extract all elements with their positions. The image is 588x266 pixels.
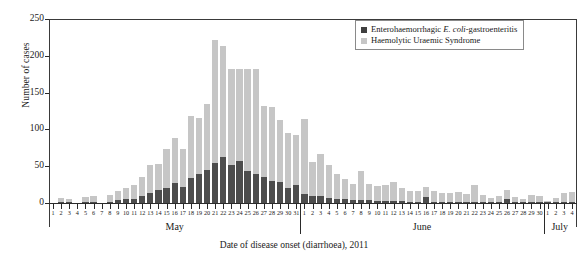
bar-segment-hus (382, 185, 388, 201)
bar (317, 154, 323, 203)
y-tick-label: 50 (4, 161, 44, 171)
bar-segment-hus (147, 165, 153, 193)
bar-segment-hus (439, 193, 445, 202)
bar (480, 195, 486, 203)
bar (115, 191, 121, 204)
bar (107, 195, 113, 203)
y-tick-label: 250 (4, 14, 44, 24)
bar-segment-hus (407, 191, 413, 202)
bar (220, 46, 226, 203)
bar (358, 171, 364, 203)
bar-segment-hus (139, 177, 145, 196)
bar (228, 69, 234, 203)
bar-segment-hus (431, 191, 437, 202)
bar-segment-hus (253, 69, 259, 174)
bar (293, 135, 299, 203)
bar-segment-hus (220, 46, 226, 157)
bar (423, 187, 429, 203)
bar-segment-hus (293, 135, 299, 185)
bar (261, 106, 267, 203)
bar (390, 182, 396, 203)
y-tick-label: 0 (4, 198, 44, 208)
bar-segment-hus (180, 149, 186, 187)
bar-segment-hus (569, 192, 575, 202)
bar (131, 185, 137, 203)
bar (196, 118, 202, 203)
bar (301, 119, 307, 203)
bar-segment-ehec (293, 185, 299, 203)
bar-segment-hus (163, 149, 169, 188)
legend: Enterohaemorrhagic E. coli-gastroenterit… (355, 20, 524, 50)
bar-segment-ehec (212, 163, 218, 203)
bar (407, 191, 413, 204)
bar-segment-ehec (155, 190, 161, 203)
bar-segment-ehec (196, 174, 202, 203)
bar-segment-hus (455, 192, 461, 202)
bar-segment-hus (504, 190, 510, 199)
bar-segment-ehec (147, 193, 153, 203)
bar-segment-hus (480, 195, 486, 202)
bar-segment-hus (269, 107, 275, 181)
bar-segment-hus (390, 182, 396, 201)
bar (447, 193, 453, 203)
bar (90, 196, 96, 203)
bar (382, 185, 388, 203)
y-tick-label: 150 (4, 88, 44, 98)
bar-segment-ehec (277, 182, 283, 203)
bar-segment-hus (196, 118, 202, 173)
bar-segment-hus (204, 104, 210, 170)
bar-segment-ehec (163, 188, 169, 203)
bar (163, 149, 169, 203)
bar-segment-ehec (253, 174, 259, 203)
bar-segment-ehec (228, 165, 234, 203)
bar (139, 177, 145, 203)
bar-segment-hus (334, 174, 340, 199)
bar (180, 149, 186, 203)
month-label: May (49, 221, 300, 232)
bar-segment-ehec (269, 181, 275, 203)
bar (561, 193, 567, 203)
bar (471, 185, 477, 203)
bar (188, 116, 194, 203)
bar-segment-hus (415, 191, 421, 201)
bar-segment-hus (236, 69, 242, 161)
bar (285, 133, 291, 203)
bar-segment-ehec (188, 178, 194, 203)
bar-segment-hus (358, 171, 364, 200)
plot-frame-right (576, 19, 577, 227)
bar-segment-hus (277, 120, 283, 183)
bar-segment-hus (188, 116, 194, 178)
bar-segment-hus (463, 194, 469, 201)
month-label: July (544, 221, 576, 232)
bar-segment-hus (301, 119, 307, 194)
bar-segment-ehec (204, 170, 210, 203)
bar-segment-ehec (244, 171, 250, 203)
legend-label-ehec: Enterohaemorrhagic E. coli-gastroenterit… (371, 25, 517, 34)
bar (415, 191, 421, 203)
bar (277, 120, 283, 203)
legend-label-hus: Haemolytic Uraemic Syndrome (371, 36, 480, 45)
bar-segment-ehec (180, 187, 186, 203)
bar-segment-hus (471, 185, 477, 201)
bar (326, 165, 332, 203)
y-tick-label: 100 (4, 124, 44, 134)
bar (342, 179, 348, 203)
bar (569, 192, 575, 203)
bar (496, 196, 502, 203)
epidemic-curve-chart: Number of cases 050100150200250 12345678… (0, 0, 588, 266)
x-tick-label: 4 (564, 210, 580, 216)
bar (269, 107, 275, 203)
bar-segment-hus (261, 106, 267, 177)
bar-segment-hus (342, 179, 348, 200)
bar (253, 69, 259, 203)
bar (374, 186, 380, 203)
bar-segment-ehec (139, 196, 145, 203)
legend-swatch-hus (361, 38, 367, 44)
bar (309, 162, 315, 203)
bar-segment-ehec (172, 183, 178, 203)
bar (463, 194, 469, 203)
bar-segment-hus (528, 195, 534, 202)
bar-segment-hus (326, 165, 332, 198)
bar-segment-ehec (220, 157, 226, 203)
bar (431, 191, 437, 204)
